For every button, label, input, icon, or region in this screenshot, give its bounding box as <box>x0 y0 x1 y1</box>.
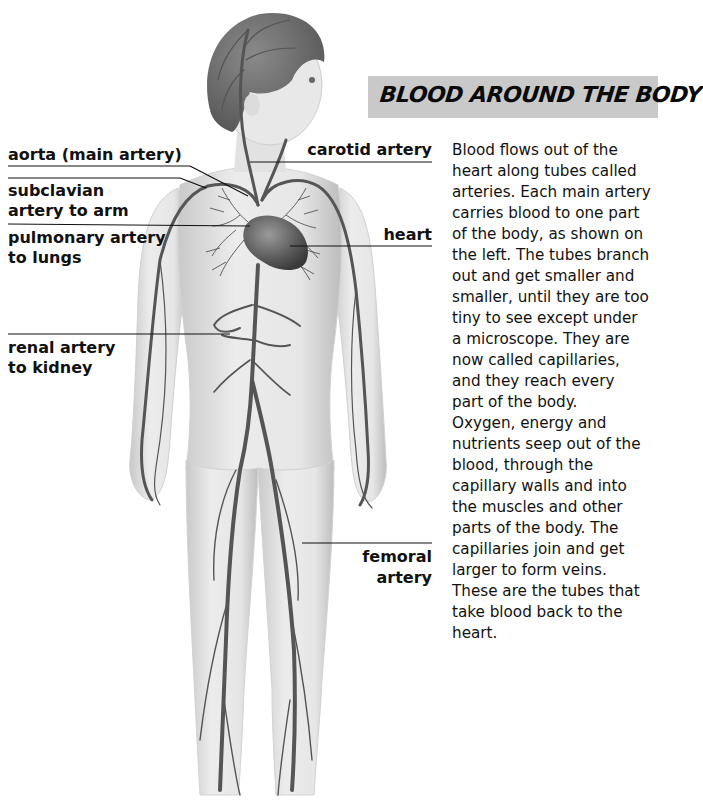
text-line: capillaries join and get <box>452 539 662 560</box>
label-carotid: carotid artery <box>307 139 432 160</box>
label-pulmonary-line1: pulmonary artery <box>8 227 166 248</box>
text-line: part of the body. <box>452 392 662 413</box>
label-pulmonary-line2: to lungs <box>8 247 81 268</box>
label-heart: heart <box>383 224 432 245</box>
text-line: heart along tubes called <box>452 161 662 182</box>
text-line: Oxygen, energy and <box>452 413 662 434</box>
text-line: of the body, as shown on <box>452 224 662 245</box>
label-renal-line1: renal artery <box>8 337 116 358</box>
text-line: larger to form veins. <box>452 560 662 581</box>
label-subclavian-line1: subclavian <box>8 180 104 201</box>
text-line: smaller, until they are too <box>452 287 662 308</box>
explanation-paragraph: Blood flows out of the heart along tubes… <box>452 140 662 644</box>
text-line: take blood back to the <box>452 602 662 623</box>
torso <box>178 166 341 476</box>
label-subclavian-line2: artery to arm <box>8 200 129 221</box>
ear <box>244 94 260 116</box>
text-line: Blood flows out of the <box>452 140 662 161</box>
label-aorta: aorta (main artery) <box>8 144 182 165</box>
text-line: arteries. Each main artery <box>452 182 662 203</box>
text-line: parts of the body. The <box>452 518 662 539</box>
text-line: now called capillaries, <box>452 350 662 371</box>
text-line: capillary walls and into <box>452 476 662 497</box>
text-line: carries blood to one part <box>452 203 662 224</box>
text-line: the muscles and other <box>452 497 662 518</box>
label-femoral-line1: femoral <box>362 546 432 567</box>
text-line: heart. <box>452 623 662 644</box>
label-femoral-line2: artery <box>376 567 432 588</box>
text-line: the left. The tubes branch <box>452 245 662 266</box>
eye <box>309 77 315 83</box>
text-line: a microscope. They are <box>452 329 662 350</box>
text-line: and they reach every <box>452 371 662 392</box>
page-title: BLOOD AROUND THE BODY <box>379 82 703 107</box>
title-banner: BLOOD AROUND THE BODY <box>368 76 658 118</box>
text-line: nutrients seep out of the <box>452 434 662 455</box>
label-renal-line2: to kidney <box>8 357 92 378</box>
text-line: These are the tubes that <box>452 581 662 602</box>
text-line: tiny to see except under <box>452 308 662 329</box>
text-line: blood, through the <box>452 455 662 476</box>
text-line: out and get smaller and <box>452 266 662 287</box>
